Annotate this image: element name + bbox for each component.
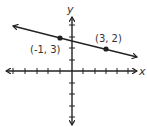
point-3-2 xyxy=(103,46,108,51)
y-axis-label: y xyxy=(66,3,74,16)
point-label-3-2: (3, 2) xyxy=(95,33,122,44)
x-axis-label: x xyxy=(138,65,146,78)
point-label-neg1-3: (-1, 3) xyxy=(30,44,61,55)
coordinate-plane: x y (-1, 3) (3, 2) xyxy=(0,0,147,127)
point-neg1-3 xyxy=(57,35,62,40)
